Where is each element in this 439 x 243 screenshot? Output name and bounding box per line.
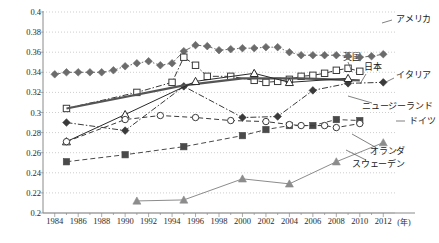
data-point-marker — [250, 69, 258, 76]
data-point-marker — [133, 59, 141, 67]
data-point-marker — [379, 79, 387, 87]
series-germany — [63, 116, 363, 165]
data-point-marker — [157, 61, 165, 69]
data-point-marker — [157, 112, 163, 118]
marker-diamond — [309, 87, 317, 95]
data-point-marker — [86, 69, 94, 77]
data-point-marker — [74, 69, 82, 77]
marker-circle-open — [192, 114, 198, 120]
data-point-marker — [357, 68, 363, 74]
marker-diamond — [51, 71, 59, 79]
marker-square-filled — [263, 126, 269, 132]
marker-diamond — [333, 51, 341, 59]
marker-square-filled — [333, 116, 339, 122]
data-point-marker — [227, 45, 235, 53]
data-point-marker — [121, 62, 129, 70]
data-point-marker — [333, 51, 341, 59]
data-point-marker — [122, 116, 128, 122]
data-point-marker — [298, 122, 304, 128]
marker-diamond — [274, 43, 282, 51]
data-point-marker — [263, 126, 269, 132]
marker-square-open — [357, 68, 363, 74]
data-point-marker — [181, 54, 187, 60]
series-italy — [66, 78, 359, 108]
marker-diamond — [74, 69, 82, 77]
marker-circle-open — [333, 124, 339, 130]
marker-diamond — [203, 42, 211, 50]
marker-triangle-filled — [379, 139, 387, 146]
marker-triangle-open — [250, 69, 258, 76]
data-point-marker — [263, 79, 269, 85]
data-point-marker — [239, 132, 245, 138]
marker-circle-open — [298, 122, 304, 128]
marker-circle-open — [321, 122, 327, 128]
marker-triangle-open — [344, 74, 352, 81]
marker-diamond — [133, 59, 141, 67]
data-point-marker — [203, 42, 211, 50]
marker-diamond — [297, 51, 305, 59]
annotation-leader-line — [382, 20, 392, 23]
data-point-marker — [333, 67, 339, 73]
marker-square-open — [321, 70, 327, 76]
marker-circle-open — [63, 138, 69, 144]
data-point-marker — [309, 51, 317, 59]
data-point-marker — [297, 51, 305, 59]
marker-square-filled — [122, 152, 128, 158]
data-point-marker — [263, 118, 269, 124]
annotation-leader-line — [346, 150, 366, 160]
marker-diamond — [356, 53, 364, 61]
marker-circle-open — [357, 120, 363, 126]
data-point-marker — [181, 143, 187, 149]
data-point-marker — [239, 114, 247, 122]
marker-diamond — [215, 46, 223, 54]
series-line — [66, 78, 359, 108]
marker-diamond — [121, 127, 129, 135]
series-netherlands — [63, 112, 363, 145]
data-point-marker — [379, 50, 387, 58]
data-point-marker — [63, 119, 71, 127]
marker-diamond — [368, 52, 376, 60]
marker-square-filled — [239, 132, 245, 138]
data-point-marker — [192, 62, 198, 68]
marker-circle-open — [228, 117, 234, 123]
data-point-marker — [274, 43, 282, 51]
marker-diamond — [344, 52, 352, 60]
marker-diamond — [63, 119, 71, 127]
data-point-marker — [344, 74, 352, 81]
marker-diamond — [192, 41, 200, 49]
data-point-marker — [250, 44, 258, 52]
data-point-marker — [204, 73, 210, 79]
marker-square-open — [204, 73, 210, 79]
marker-diamond — [86, 69, 94, 77]
data-point-marker — [122, 152, 128, 158]
marker-diamond — [110, 66, 118, 74]
data-point-marker — [215, 46, 223, 54]
marker-diamond — [157, 61, 165, 69]
data-point-marker — [356, 53, 364, 61]
data-point-marker — [63, 159, 69, 165]
data-point-marker — [262, 43, 270, 51]
marker-diamond — [239, 44, 247, 52]
data-point-marker — [333, 116, 339, 122]
marker-diamond — [121, 62, 129, 70]
data-point-marker — [286, 48, 294, 56]
marker-diamond — [321, 51, 329, 59]
data-point-marker — [333, 124, 339, 130]
marker-diamond — [145, 57, 153, 65]
data-point-marker — [274, 113, 282, 121]
marker-diamond — [262, 43, 270, 51]
marker-diamond — [227, 45, 235, 53]
plot-area — [0, 0, 439, 243]
marker-square-filled — [63, 159, 69, 165]
data-point-marker — [238, 175, 246, 182]
annotation-leader-line — [352, 134, 375, 147]
data-point-marker — [121, 127, 129, 135]
marker-square-open — [181, 54, 187, 60]
series-line — [137, 143, 383, 201]
marker-square-filled — [181, 143, 187, 149]
marker-square-open — [263, 79, 269, 85]
data-point-marker — [239, 44, 247, 52]
line-chart: 0.20.220.240.260.280.30.320.340.360.380.… — [0, 0, 439, 243]
marker-diamond — [379, 79, 387, 87]
marker-diamond — [98, 69, 106, 77]
